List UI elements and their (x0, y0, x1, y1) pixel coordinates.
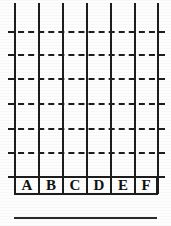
column-label-text: A (22, 178, 33, 193)
column-label-cell-a: A (14, 176, 38, 195)
column-label-text: D (94, 178, 105, 193)
column-label-cell-d: D (86, 176, 110, 195)
horizontal-dash-2 (8, 54, 165, 56)
column-label-text: B (46, 178, 56, 193)
column-label-cell-c: C (62, 176, 86, 195)
column-label-row: ABCDEF (14, 176, 158, 195)
column-label-cell-b: B (38, 176, 62, 195)
horizontal-dash-6 (8, 152, 165, 154)
scanned-grid-figure: ABCDEF (0, 0, 171, 226)
column-label-cell-f: F (134, 176, 158, 195)
column-label-text: C (70, 178, 81, 193)
column-label-text: F (141, 178, 150, 193)
horizontal-dash-3 (8, 78, 165, 80)
horizontal-dash-4 (8, 103, 165, 105)
bottom-rule (14, 217, 157, 219)
column-label-text: E (118, 178, 128, 193)
column-label-cell-e: E (110, 176, 134, 195)
horizontal-dash-1 (8, 31, 165, 33)
horizontal-dash-5 (8, 128, 165, 130)
